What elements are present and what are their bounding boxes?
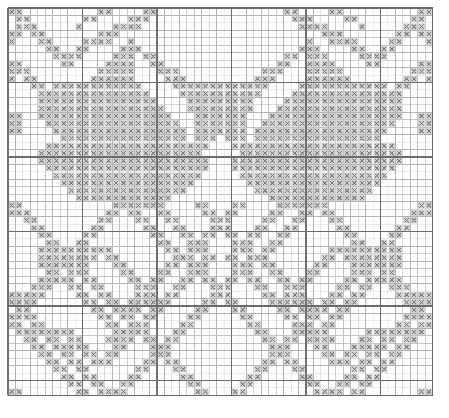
pattern-grid-canvas (0, 0, 449, 418)
cross-stitch-chart (0, 0, 449, 418)
